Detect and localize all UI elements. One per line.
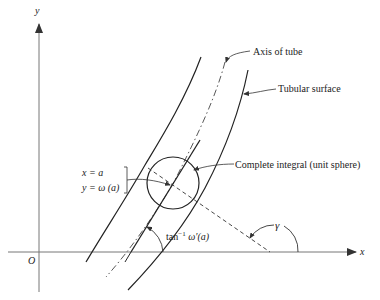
tubular-surface-leader bbox=[244, 89, 276, 94]
y-axis-label: y bbox=[34, 5, 40, 16]
tan-text: tan bbox=[166, 231, 178, 242]
tangent-line-lower bbox=[125, 252, 131, 262]
tube-diagram: y x O γ Axis of tube Tubular surface Com… bbox=[0, 0, 380, 300]
tube-axis-curve bbox=[106, 62, 225, 277]
tangent-angle-label: tan−1 ω′(a) bbox=[166, 230, 210, 243]
gamma-angle-arc-2 bbox=[250, 225, 274, 238]
origin-label: O bbox=[28, 255, 35, 266]
x-axis-label: x bbox=[359, 246, 365, 257]
tubular-surface-label: Tubular surface bbox=[278, 83, 341, 94]
gamma-label: γ bbox=[275, 219, 280, 231]
tan-argument: ω′(a) bbox=[186, 231, 210, 243]
axis-of-tube-label: Axis of tube bbox=[253, 46, 303, 57]
point-x-label: x = a bbox=[81, 167, 103, 178]
point-y-label: y = ω (a) bbox=[81, 182, 120, 194]
tangent-angle-arc bbox=[147, 227, 163, 252]
axis-of-tube-leader bbox=[226, 51, 250, 62]
gamma-angle-arc bbox=[284, 226, 298, 252]
complete-integral-label: Complete integral (unit sphere) bbox=[235, 159, 360, 171]
